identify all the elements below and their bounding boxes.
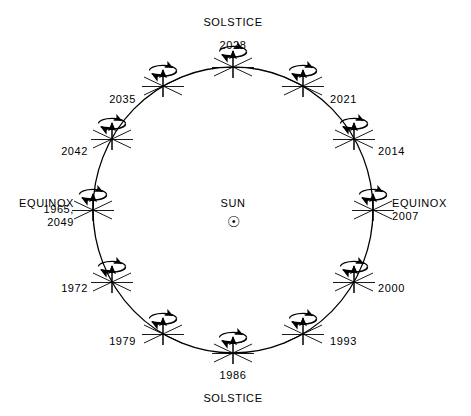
- earth-marker: [142, 65, 184, 97]
- year-label-1986: 1986: [220, 369, 247, 382]
- year-label-1979: 1979: [109, 335, 136, 348]
- year-label-1972: 1972: [61, 282, 88, 295]
- earth-marker: [72, 189, 114, 221]
- earth-marker: [91, 118, 133, 150]
- year-label-1965-2049: 1965, 2049: [43, 203, 74, 229]
- year-label-2021: 2021: [330, 93, 357, 106]
- earth-marker: [282, 65, 324, 97]
- year-label-2035: 2035: [109, 93, 136, 106]
- earth-marker: [282, 313, 324, 345]
- year-label-1993: 1993: [330, 335, 357, 348]
- earth-marker: [333, 261, 375, 293]
- year-label-2028: 2028: [220, 39, 247, 52]
- earth-marker: [142, 313, 184, 345]
- year-label-2042: 2042: [61, 145, 88, 158]
- precession-diagram: SOLSTICE SOLSTICE SUN ☉ EQUINOX EQUINOX …: [0, 0, 471, 416]
- sun-label: SUN: [220, 197, 245, 209]
- year-label-2007: 2007: [392, 210, 419, 223]
- earth-marker: [91, 261, 133, 293]
- equinox-right-label: EQUINOX: [392, 197, 447, 210]
- solstice-bottom-label: SOLSTICE: [203, 392, 262, 405]
- year-label-2014: 2014: [378, 145, 405, 158]
- orbit-ellipse: [93, 67, 373, 353]
- earth-marker: [212, 332, 254, 364]
- earth-marker: [333, 118, 375, 150]
- year-label-2000: 2000: [378, 282, 405, 295]
- sun-symbol-icon: ☉: [227, 214, 240, 229]
- solstice-top-label: SOLSTICE: [203, 16, 262, 29]
- earth-marker: [352, 189, 394, 221]
